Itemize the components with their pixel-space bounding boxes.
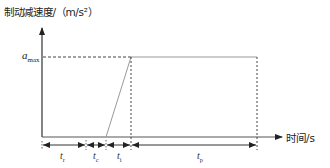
tr-sub: r (63, 156, 65, 163)
interval-label-ti: ti (117, 150, 122, 163)
amax-label: amax (22, 49, 40, 64)
ti-sub: i (120, 156, 122, 163)
y-axis-label: 制动减速度/（m/s²） (4, 4, 97, 19)
tp-sub: p (200, 156, 203, 163)
tc-sub: c (96, 156, 99, 163)
amax-sub: max (28, 56, 40, 64)
deceleration-ramp (106, 57, 131, 137)
interval-label-tr: tr (60, 150, 65, 163)
deceleration-diagram (0, 0, 330, 168)
interval-label-tc: tc (93, 150, 99, 163)
x-axis-label: 时间/s (286, 130, 315, 145)
interval-label-tp: tp (197, 150, 203, 163)
